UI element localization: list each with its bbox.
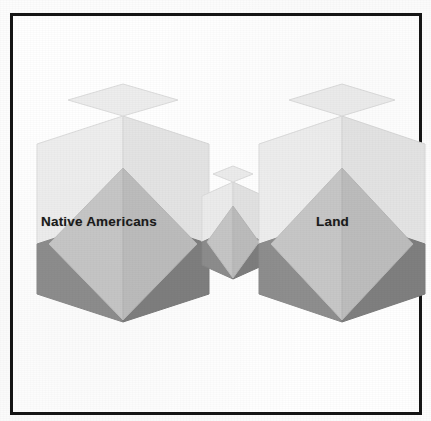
- connector-face-top: [213, 166, 253, 182]
- diagram-stage: Native Americans Land: [13, 16, 419, 412]
- cube-label-native-americans: Native Americans: [41, 214, 157, 229]
- cube-label-land: Land: [316, 214, 349, 229]
- outer-border-frame: Native Americans Land: [10, 13, 422, 415]
- figure-canvas: Native Americans Land: [0, 0, 431, 421]
- cube-face-top: [68, 84, 178, 116]
- cube-face-top: [289, 84, 395, 116]
- cube-connector: [202, 182, 264, 279]
